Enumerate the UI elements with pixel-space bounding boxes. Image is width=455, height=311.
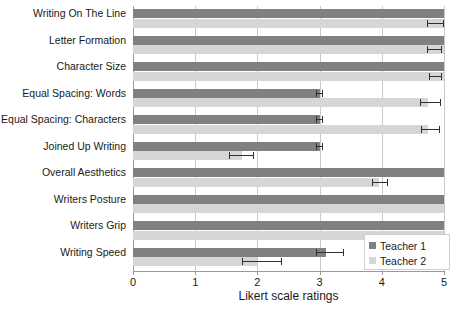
legend-swatch-teacher-2 [369, 257, 376, 264]
error-bar [316, 248, 344, 257]
chart-legend: Teacher 1 Teacher 2 [364, 234, 450, 270]
category-label: Equal Spacing: Characters [1, 113, 126, 125]
x-tick-label: 0 [130, 276, 136, 288]
error-bar [316, 142, 322, 151]
bar-teacher-1 [133, 115, 320, 124]
error-bar [242, 257, 282, 266]
legend-label-teacher-2: Teacher 2 [380, 255, 426, 267]
error-bar-line [229, 155, 254, 156]
x-tick-mark [320, 271, 321, 275]
category-label: Writers Posture [54, 193, 126, 205]
bar-teacher-2 [133, 178, 379, 187]
bar-teacher-2 [133, 257, 257, 266]
bar-row: Writing On The Line [133, 6, 444, 33]
x-tick-label: 2 [254, 276, 260, 288]
bar-teacher-1 [133, 89, 320, 98]
error-bar-line [421, 129, 440, 130]
error-bar-cap-high [322, 116, 323, 123]
bar-teacher-1 [133, 168, 444, 177]
error-bar-cap-low [242, 258, 243, 265]
x-tick-label: 5 [441, 276, 447, 288]
error-bar [427, 45, 443, 54]
error-bar-cap-high [443, 20, 444, 27]
error-bar-line [316, 252, 344, 253]
error-bar-line [420, 102, 441, 103]
error-bar [420, 98, 441, 107]
likert-bar-chart: 012345 Writing On The LineLetter Formati… [0, 0, 455, 311]
x-axis-line [133, 271, 445, 272]
bar-row: Overall Aesthetics [133, 165, 444, 192]
error-bar-line [242, 261, 282, 262]
x-axis-title: Likert scale ratings [133, 289, 444, 303]
error-bar-line [427, 23, 444, 24]
bar-teacher-2 [133, 19, 444, 28]
bar-teacher-1 [133, 36, 444, 45]
bar-row: Equal Spacing: Words [133, 86, 444, 113]
error-bar-cap-low [229, 152, 230, 159]
category-label: Writers Grip [70, 219, 126, 231]
error-bar-cap-high [441, 73, 442, 80]
error-bar [316, 115, 322, 124]
error-bar [372, 178, 388, 187]
error-bar [421, 125, 440, 134]
error-bar-cap-low [316, 249, 317, 256]
legend-item-teacher-2: Teacher 2 [369, 253, 445, 268]
legend-item-teacher-1: Teacher 1 [369, 238, 445, 253]
bar-teacher-2 [133, 204, 444, 213]
error-bar-cap-low [421, 126, 422, 133]
gridline [444, 6, 445, 271]
bar-teacher-1 [133, 195, 444, 204]
error-bar-cap-high [441, 46, 442, 53]
bar-teacher-1 [133, 62, 444, 71]
error-bar [316, 89, 322, 98]
category-label: Overall Aesthetics [42, 166, 126, 178]
bar-teacher-2 [133, 45, 444, 54]
x-tick-label: 3 [317, 276, 323, 288]
x-tick-mark [257, 271, 258, 275]
x-tick-mark [195, 271, 196, 275]
bar-teacher-2 [133, 98, 428, 107]
error-bar-cap-low [427, 46, 428, 53]
error-bar-cap-low [429, 73, 430, 80]
error-bar [429, 72, 442, 81]
error-bar-cap-low [427, 20, 428, 27]
bar-teacher-1 [133, 248, 326, 257]
x-tick-mark [382, 271, 383, 275]
bar-row: Joined Up Writing [133, 139, 444, 166]
error-bar-cap-high [440, 99, 441, 106]
x-tick-label: 1 [192, 276, 198, 288]
error-bar-cap-low [372, 179, 373, 186]
bar-row: Equal Spacing: Characters [133, 112, 444, 139]
error-bar [427, 19, 444, 28]
bar-teacher-1 [133, 9, 444, 18]
bar-teacher-2 [133, 151, 242, 160]
error-bar-cap-high [387, 179, 388, 186]
category-label: Character Size [57, 60, 126, 72]
legend-label-teacher-1: Teacher 1 [380, 240, 426, 252]
error-bar-cap-high [322, 90, 323, 97]
error-bar-cap-high [322, 143, 323, 150]
x-tick-label: 4 [379, 276, 385, 288]
error-bar-cap-high [343, 249, 344, 256]
category-label: Writing Speed [60, 246, 126, 258]
error-bar-cap-high [281, 258, 282, 265]
x-tick-mark [444, 271, 445, 275]
bar-row: Letter Formation [133, 33, 444, 60]
error-bar-line [427, 49, 443, 50]
bar-row: Writers Posture [133, 192, 444, 219]
error-bar-line [372, 182, 388, 183]
category-label: Joined Up Writing [43, 140, 126, 152]
error-bar-cap-low [420, 99, 421, 106]
error-bar-cap-high [439, 126, 440, 133]
bar-teacher-2 [133, 72, 444, 81]
error-bar-cap-low [316, 143, 317, 150]
bar-teacher-1 [133, 142, 320, 151]
x-tick-mark [133, 271, 134, 275]
bar-teacher-1 [133, 221, 444, 230]
error-bar-cap-low [316, 116, 317, 123]
category-label: Letter Formation [49, 34, 126, 46]
error-bar-cap-low [316, 90, 317, 97]
bar-teacher-2 [133, 125, 428, 134]
category-label: Equal Spacing: Words [22, 87, 126, 99]
legend-swatch-teacher-1 [369, 242, 376, 249]
